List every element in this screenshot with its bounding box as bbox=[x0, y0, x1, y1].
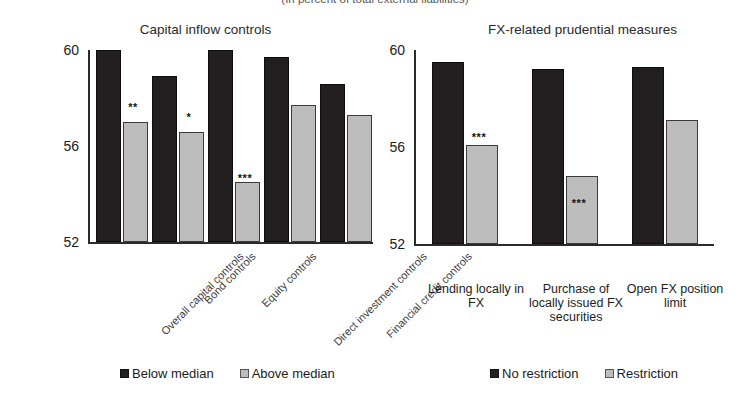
legend-left: Below median Above median bbox=[120, 366, 335, 381]
sig-left-g3: *** bbox=[238, 173, 252, 184]
x-label-right-g2-line3: securities bbox=[516, 310, 636, 324]
bar-left-g3-below-median bbox=[208, 50, 233, 242]
sig-right-g2: *** bbox=[572, 198, 586, 209]
bar-right-g3-restriction bbox=[666, 120, 698, 244]
legend-swatch-light-icon bbox=[605, 369, 614, 378]
plot-area-right: 60 56 52 *** *** bbox=[414, 50, 714, 244]
x-label-right-g3-line2: limit bbox=[614, 296, 736, 310]
chart-title-left: Capital inflow controls bbox=[18, 22, 393, 37]
bar-left-g4-below-median bbox=[264, 57, 289, 242]
sig-left-g1: ** bbox=[128, 102, 138, 113]
bar-right-g2-restriction bbox=[566, 176, 598, 244]
bar-right-g1-restriction bbox=[466, 145, 498, 244]
y-tick-right-60: 60 bbox=[389, 43, 405, 57]
y-tick-right-52: 52 bbox=[389, 237, 405, 251]
bar-left-g2-below-median bbox=[152, 76, 177, 242]
legend-swatch-dark-icon bbox=[120, 369, 129, 378]
legend-right: No restriction Restriction bbox=[490, 366, 678, 381]
y-axis-line-left bbox=[88, 50, 90, 242]
plot-area-left: 60 56 52 ** * *** bbox=[88, 50, 373, 242]
chart-title-right: FX-related prudential measures bbox=[395, 22, 750, 37]
y-tick-left-52: 52 bbox=[63, 235, 79, 249]
legend-swatch-dark-icon bbox=[490, 369, 499, 378]
bar-right-g1-no-restriction bbox=[432, 62, 464, 244]
bar-left-g1-above-median bbox=[123, 122, 148, 242]
x-label-right-open-fx-position-limit: Open FX position limit bbox=[614, 282, 736, 310]
x-axis-line-right bbox=[414, 244, 714, 246]
y-axis-line-right bbox=[414, 50, 416, 244]
bar-left-g4-above-median bbox=[291, 105, 316, 242]
bar-left-g1-below-median bbox=[96, 50, 121, 242]
x-axis-line-left bbox=[88, 242, 373, 244]
x-label-left-equity-controls: Equity controls bbox=[259, 250, 319, 310]
bar-left-g5-below-median bbox=[320, 84, 345, 242]
legend-label-above-median: Above median bbox=[252, 366, 335, 381]
legend-label-restriction: Restriction bbox=[617, 366, 678, 381]
legend-label-no-restriction: No restriction bbox=[502, 366, 579, 381]
y-tick-right-56: 56 bbox=[389, 140, 405, 154]
x-label-right-g3-line1: Open FX position bbox=[614, 282, 736, 296]
legend-item-above-median[interactable]: Above median bbox=[240, 366, 335, 381]
legend-item-no-restriction[interactable]: No restriction bbox=[490, 366, 579, 381]
legend-item-below-median[interactable]: Below median bbox=[120, 366, 214, 381]
y-tick-left-56: 56 bbox=[63, 139, 79, 153]
bar-right-g3-no-restriction bbox=[632, 67, 664, 244]
bar-left-g3-above-median bbox=[235, 182, 260, 242]
x-label-left-overall-capital-controls: Overall capital controls bbox=[159, 250, 246, 337]
bar-left-g2-above-median bbox=[179, 132, 204, 242]
legend-swatch-light-icon bbox=[240, 369, 249, 378]
bar-left-g5-above-median bbox=[347, 115, 372, 242]
sig-left-g2: * bbox=[187, 112, 192, 123]
legend-item-restriction[interactable]: Restriction bbox=[605, 366, 678, 381]
chart-panel-capital-inflow-controls: Capital inflow controls 60 56 52 ** * **… bbox=[0, 0, 375, 413]
y-tick-left-60: 60 bbox=[63, 43, 79, 57]
legend-label-below-median: Below median bbox=[132, 366, 214, 381]
bar-right-g2-no-restriction bbox=[532, 69, 564, 244]
sig-right-g1: *** bbox=[472, 132, 486, 143]
